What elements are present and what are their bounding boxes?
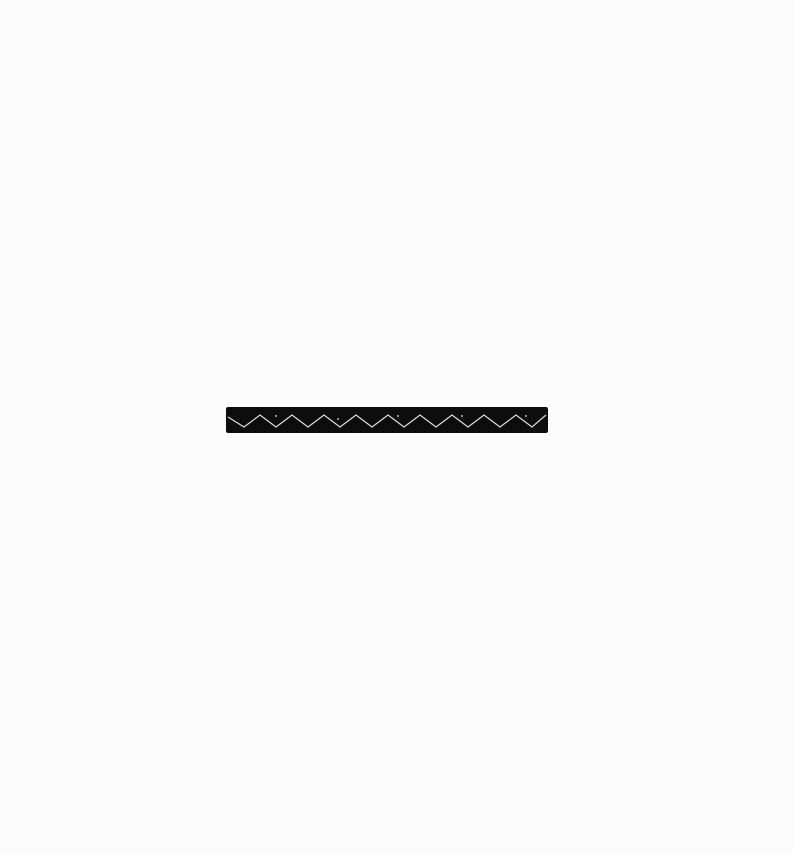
zigzag-band	[226, 407, 548, 433]
zigzag-pattern-icon	[226, 407, 548, 433]
